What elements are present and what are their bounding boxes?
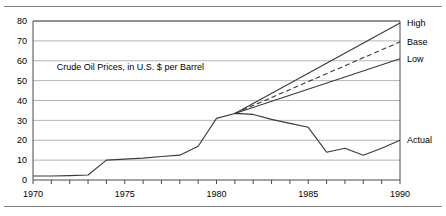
x-tick-labels-group: 19701975198019851990 xyxy=(23,189,410,199)
series-line-base xyxy=(235,42,400,114)
series-line-low xyxy=(235,59,400,114)
y-tick-label-0: 0 xyxy=(22,175,27,185)
x-tick-label-1980: 1980 xyxy=(206,189,226,199)
x-tick-label-1985: 1985 xyxy=(298,189,318,199)
y-tick-label-60: 60 xyxy=(17,56,27,66)
x-tick-label-1975: 1975 xyxy=(115,189,135,199)
data-series-group xyxy=(33,23,400,176)
x-tick-label-1990: 1990 xyxy=(390,189,410,199)
chart-annotation: Crude Oil Prices, in U.S. $ per Barrel xyxy=(57,62,204,72)
y-tick-label-10: 10 xyxy=(17,155,27,165)
gridlines-group xyxy=(33,21,400,160)
series-label-actual: Actual xyxy=(407,135,432,145)
y-tick-label-80: 80 xyxy=(17,16,27,26)
y-tick-label-30: 30 xyxy=(17,116,27,126)
series-line-actual xyxy=(33,113,400,176)
line-chart: 01020304050607080 19701975198019851990 A… xyxy=(0,0,446,216)
x-tickmarks-group xyxy=(33,180,400,184)
y-tick-label-40: 40 xyxy=(17,96,27,106)
x-tick-label-1970: 1970 xyxy=(23,189,43,199)
y-tick-label-50: 50 xyxy=(17,76,27,86)
y-tick-label-20: 20 xyxy=(17,135,27,145)
series-labels-group: ActualHighBaseLow xyxy=(407,18,432,145)
y-tick-label-70: 70 xyxy=(17,36,27,46)
series-label-base: Base xyxy=(407,37,428,47)
series-label-low: Low xyxy=(407,54,424,64)
series-label-high: High xyxy=(407,18,426,28)
chart-figure: 01020304050607080 19701975198019851990 A… xyxy=(0,0,446,216)
y-tick-labels-group: 01020304050607080 xyxy=(17,16,27,185)
series-line-high xyxy=(235,23,400,113)
